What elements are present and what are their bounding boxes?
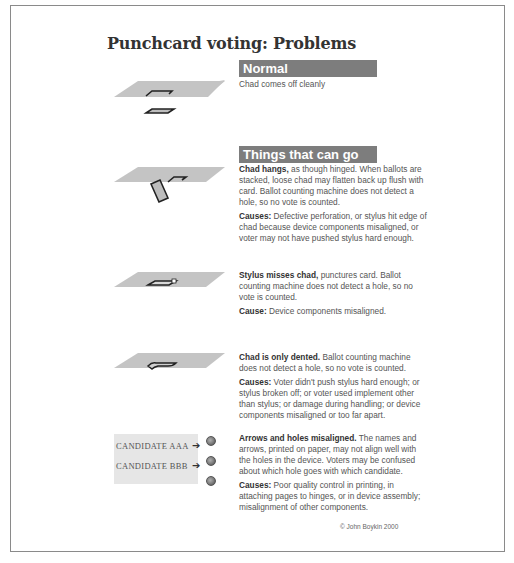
dented-chad-illustration — [108, 350, 233, 380]
cause-text: Device components misaligned. — [267, 306, 386, 316]
copyright: © John Boykin 2000 — [340, 523, 398, 530]
problem-chad-dented: Chad is only dented. Ballot counting mac… — [239, 352, 429, 424]
cause-label: Causes: — [239, 211, 271, 221]
wrong-heading: Things that can go wrong — [239, 146, 377, 163]
candidate-bbb-label: CANDIDATE BBB — [116, 461, 188, 471]
cause-label: Cause: — [239, 306, 267, 316]
problem-lead: Arrows and holes misaligned. — [239, 433, 357, 443]
problem-lead: Chad is only dented. — [239, 352, 320, 362]
page-title: Punchcard voting: Problems — [107, 34, 356, 53]
punch-hole-2 — [206, 456, 216, 466]
arrow-icon: ➔ — [192, 460, 200, 471]
hanging-chad-illustration — [108, 162, 233, 212]
problem-stylus-misses: Stylus misses chad, punctures card. Ball… — [239, 270, 429, 320]
normal-desc-text: Chad comes off cleanly — [239, 79, 429, 90]
normal-heading: Normal — [239, 60, 377, 77]
normal-chad-illustration — [108, 75, 233, 120]
problem-chad-hangs: Chad hangs, as though hinged. When ballo… — [239, 164, 429, 247]
normal-description: Chad comes off cleanly — [239, 79, 429, 93]
problem-lead: Stylus misses chad, — [239, 270, 318, 280]
cause-label: Causes: — [239, 377, 271, 387]
cause-label: Causes: — [239, 480, 271, 490]
problem-lead: Chad hangs, — [239, 164, 289, 174]
arrow-icon: ➔ — [192, 440, 200, 451]
punch-hole-1 — [206, 436, 216, 446]
problem-arrows-misaligned: Arrows and holes misaligned. The names a… — [239, 433, 425, 516]
candidate-aaa-label: CANDIDATE AAA — [116, 441, 189, 451]
stylus-misses-illustration — [108, 268, 233, 298]
punch-hole-3 — [206, 476, 216, 486]
